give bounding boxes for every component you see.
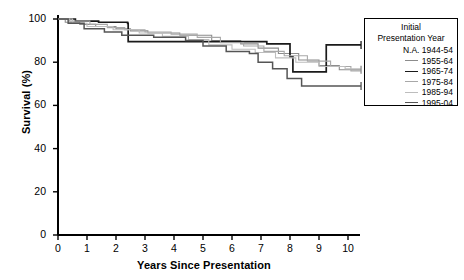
x-tick-label: 0 [48,242,68,254]
x-tick-label: 3 [135,242,155,254]
legend-entry-label: N.A. 1944-54 [403,45,453,55]
legend-line-swatch [405,102,418,103]
y-tick-label: 100 [16,12,46,24]
x-tick-label: 9 [309,242,329,254]
legend-title: Initial Presentation Year [365,19,457,43]
x-tick-label: 4 [164,242,184,254]
legend-entry-label: 1985-94 [422,87,453,97]
y-tick-label: 60 [16,98,46,110]
legend-line-swatch [405,60,418,61]
legend-entry: N.A. 1944-54 [365,45,457,56]
legend-entry: 1955-64 [365,56,457,67]
legend-title-line-1: Initial [365,22,457,33]
survival-chart-figure: Survival (%) Years Since Presentation 02… [0,0,464,280]
legend-entry: 1995-04 [365,98,457,109]
x-axis-title: Years Since Presentation [58,259,350,271]
legend-title-line-2: Presentation Year [365,33,457,44]
x-tick-label: 2 [106,242,126,254]
legend-entry: 1965-74 [365,66,457,77]
survival-curve-1995-04 [58,19,361,86]
y-tick-label: 80 [16,55,46,67]
legend-entry-label: 1965-74 [422,66,453,76]
legend-entry: 1975-84 [365,77,457,88]
x-tick-label: 6 [222,242,242,254]
chart-legend: Initial Presentation Year N.A. 1944-5419… [364,18,458,106]
y-tick-label: 20 [16,185,46,197]
y-tick-label: 40 [16,142,46,154]
legend-line-swatch [405,81,418,82]
legend-entry-label: 1975-84 [422,77,453,87]
legend-line-swatch [405,92,418,93]
x-tick-label: 7 [251,242,271,254]
legend-entry-label: 1955-64 [422,56,453,66]
legend-entry: 1985-94 [365,87,457,98]
x-tick-label: 10 [338,242,358,254]
x-tick-label: 5 [193,242,213,254]
legend-entry-label: 1995-04 [422,98,453,108]
x-tick-label: 1 [77,242,97,254]
legend-line-swatch [405,71,418,72]
legend-entry-list: N.A. 1944-541955-641965-741975-841985-94… [365,45,457,108]
x-tick-label: 8 [280,242,300,254]
y-tick-label: 0 [16,228,46,240]
